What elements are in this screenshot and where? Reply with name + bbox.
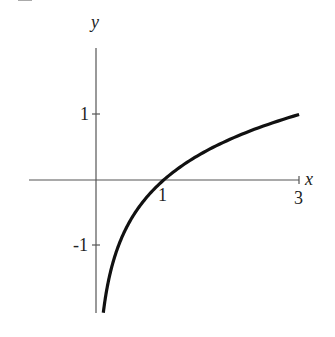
y-tick-label-neg1: -1 (73, 235, 88, 255)
x-tick-label-1: 1 (158, 185, 167, 205)
log-graph: y x 1 -1 1 3 (0, 0, 335, 337)
y-axis-label: y (89, 12, 99, 32)
y-tick-label-1: 1 (80, 104, 89, 124)
log-curve (103, 115, 299, 313)
x-axis-label: x (304, 169, 313, 189)
x-tick-label-3: 3 (294, 188, 303, 208)
